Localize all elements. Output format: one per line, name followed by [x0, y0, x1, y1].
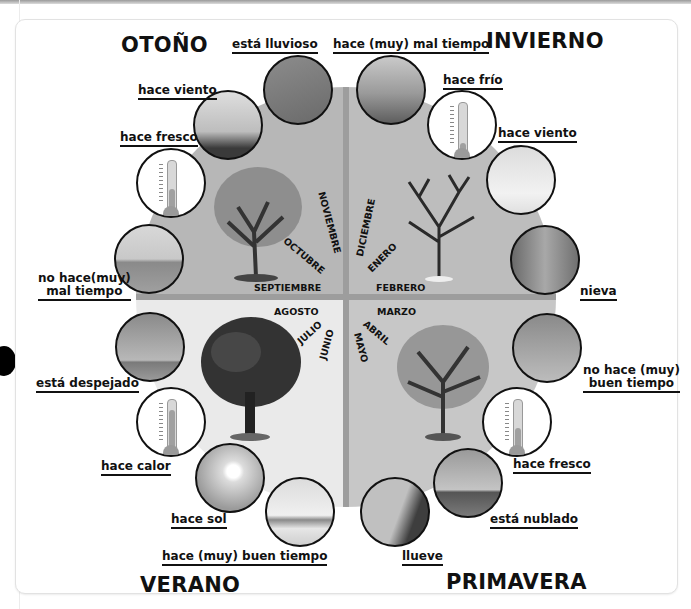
bubble-hace-fresco-otono — [136, 148, 206, 218]
season-title-winter: INVIERNO — [486, 29, 604, 53]
season-title-spring: PRIMAVERA — [446, 570, 587, 594]
thermometer-icon — [513, 399, 523, 451]
label-mal-tiempo: hace (muy) mal tiempo — [333, 38, 489, 54]
label-esta-despejado: está despejado — [36, 377, 139, 393]
bubble-mal-tiempo — [356, 55, 426, 125]
month-marzo: MARZO — [377, 306, 416, 317]
label-no-mal-tiempo-line2: mal tiempo — [38, 285, 131, 298]
bubble-hace-sol — [195, 443, 265, 513]
thermometer-bulb — [509, 445, 525, 457]
label-hace-sol: hace sol — [171, 513, 227, 529]
bubble-hace-fresco-primavera — [482, 387, 552, 457]
bubble-esta-nublado — [433, 448, 503, 518]
bubble-hace-viento-invierno — [486, 145, 556, 215]
summer-tree-icon — [196, 312, 306, 442]
season-title-summer: VERANO — [140, 573, 240, 597]
thermometer-icon — [458, 102, 468, 154]
label-hace-viento-otono: hace viento — [138, 84, 217, 100]
top-bar — [0, 0, 691, 4]
thermometer-icon — [167, 160, 177, 212]
bubble-nieva — [510, 225, 580, 295]
label-hace-fresco-otono: hace fresco — [120, 131, 198, 147]
label-hace-fresco-primavera: hace fresco — [513, 458, 591, 474]
label-no-buen-tiempo-line2: buen tiempo — [583, 377, 680, 390]
thermometer-icon — [167, 399, 177, 451]
label-buen-tiempo: hace (muy) buen tiempo — [162, 550, 327, 566]
label-hace-frio: hace frío — [443, 74, 503, 90]
bubble-buen-tiempo — [265, 477, 335, 547]
bubble-hace-frio — [427, 90, 497, 160]
label-no-mal-tiempo: no hace(muy) mal tiempo — [38, 272, 131, 301]
month-septiembre: SEPTIEMBRE — [254, 282, 321, 293]
label-esta-nublado: está nublado — [490, 513, 578, 529]
label-esta-lluvioso: está lluvioso — [232, 38, 318, 54]
thermometer-ticks — [450, 106, 454, 146]
label-hace-calor: hace calor — [101, 460, 171, 476]
winter-tree-icon — [394, 167, 484, 282]
thermometer-ticks — [159, 164, 163, 204]
bubble-esta-lluvioso — [263, 55, 333, 125]
label-no-buen-tiempo: no hace (muy) buen tiempo — [583, 364, 680, 393]
bubble-no-buen-tiempo — [512, 313, 582, 383]
horizontal-divider — [136, 294, 556, 300]
label-nieva: nieva — [580, 285, 617, 301]
autumn-tree-icon — [208, 162, 308, 282]
season-title-autumn: OTOÑO — [121, 33, 208, 57]
bubble-esta-despejado — [115, 312, 185, 382]
thermometer-ticks — [159, 403, 163, 443]
bubble-llueve — [360, 477, 430, 547]
bubble-hace-calor — [136, 387, 206, 457]
label-llueve: llueve — [402, 550, 443, 566]
month-agosto: AGOSTO — [274, 306, 319, 317]
month-febrero: FEBRERO — [376, 282, 425, 293]
left-edge-dot — [0, 346, 16, 376]
thermometer-bulb — [163, 445, 179, 457]
label-hace-viento-invierno: hace viento — [498, 127, 577, 143]
thermometer-bulb — [454, 148, 470, 160]
thermometer-ticks — [505, 403, 509, 443]
thermometer-bulb — [163, 206, 179, 218]
bubble-hace-viento-otono — [193, 90, 263, 160]
